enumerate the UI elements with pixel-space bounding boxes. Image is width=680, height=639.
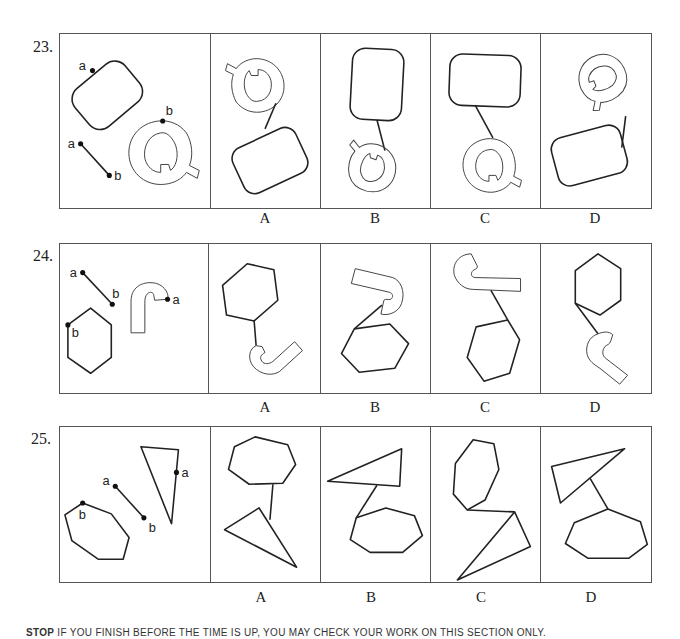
question-24-pieces-figure: a b b a <box>60 244 208 393</box>
question-25-choice-A-panel[interactable] <box>210 427 321 582</box>
question-24-row: a b b a <box>59 243 652 394</box>
stop-label: STOP <box>26 627 54 638</box>
question-24-choice-A-label: A <box>250 399 280 416</box>
question-25-choice-C-figure <box>431 427 541 582</box>
question-24-choice-B-panel[interactable] <box>320 244 431 393</box>
question-23-choice-A-panel[interactable] <box>210 34 321 208</box>
question-25-choice-C-panel[interactable] <box>430 427 541 582</box>
question-23-choice-D-label: D <box>580 210 610 227</box>
svg-text:b: b <box>72 325 79 340</box>
question-25-choice-B-panel[interactable] <box>320 427 431 582</box>
svg-text:a: a <box>181 465 189 480</box>
svg-text:b: b <box>149 520 156 535</box>
question-25-choice-B-figure <box>321 427 431 582</box>
question-23-prompt-panel: a a b b <box>60 34 210 208</box>
question-25-choice-D-figure <box>541 427 654 582</box>
question-25-prompt-panel: a a b b <box>60 427 210 582</box>
svg-text:b: b <box>114 168 121 183</box>
question-25-choice-A-label: A <box>246 589 276 606</box>
question-25-choice-C-label: C <box>466 589 496 606</box>
svg-text:a: a <box>79 58 87 73</box>
stop-instruction: STOP IF YOU FINISH BEFORE THE TIME IS UP… <box>26 627 546 638</box>
svg-text:a: a <box>70 265 78 280</box>
question-number-25: 25. <box>31 430 51 448</box>
svg-text:b: b <box>79 507 86 522</box>
svg-text:a: a <box>102 473 110 488</box>
svg-text:b: b <box>166 103 173 118</box>
question-number-23: 23. <box>33 38 53 56</box>
question-24-choice-D-panel[interactable] <box>540 244 654 393</box>
question-25-choice-D-panel[interactable] <box>540 427 654 582</box>
question-25-row: a a b b <box>59 426 652 583</box>
question-25-choice-B-label: B <box>356 589 386 606</box>
question-24-choice-B-label: B <box>360 399 390 416</box>
question-24-choice-A-panel[interactable] <box>208 244 321 393</box>
question-23-choice-C-figure <box>431 34 541 208</box>
question-24-choice-D-label: D <box>580 399 610 416</box>
question-23-pieces-figure: a a b b <box>60 34 210 208</box>
question-24-choice-B-figure <box>321 244 431 393</box>
svg-text:a: a <box>68 136 76 151</box>
question-23-choice-C-panel[interactable] <box>430 34 541 208</box>
question-24-choice-C-panel[interactable] <box>430 244 541 393</box>
stop-instruction-text: IF YOU FINISH BEFORE THE TIME IS UP, YOU… <box>57 627 546 638</box>
question-25-pieces-figure: a a b b <box>60 427 210 582</box>
question-25-choice-D-label: D <box>576 589 606 606</box>
question-23-choice-C-label: C <box>470 210 500 227</box>
question-25-choice-A-figure <box>211 427 321 582</box>
svg-text:b: b <box>112 286 119 301</box>
question-23-choice-A-figure <box>211 34 321 208</box>
question-number-24: 24. <box>33 247 53 265</box>
question-23-choice-D-panel[interactable] <box>540 34 654 208</box>
question-23-choice-B-figure <box>321 34 431 208</box>
question-23-choice-A-label: A <box>250 210 280 227</box>
question-23-choice-D-figure <box>541 34 654 208</box>
question-24-choice-A-figure <box>209 244 321 393</box>
question-23-choice-B-panel[interactable] <box>320 34 431 208</box>
question-23-choice-B-label: B <box>360 210 390 227</box>
question-23-row: a a b b <box>59 33 652 209</box>
question-24-choice-C-label: C <box>470 399 500 416</box>
question-24-choice-C-figure <box>431 244 541 393</box>
question-24-choice-D-figure <box>541 244 654 393</box>
svg-text:a: a <box>172 292 180 307</box>
question-24-prompt-panel: a b b a <box>60 244 208 393</box>
